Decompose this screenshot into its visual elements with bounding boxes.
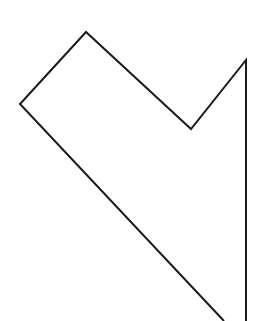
shape-outline: [20, 32, 246, 321]
drawing-canvas: [0, 0, 256, 321]
geometric-outline-shape: [0, 0, 256, 321]
